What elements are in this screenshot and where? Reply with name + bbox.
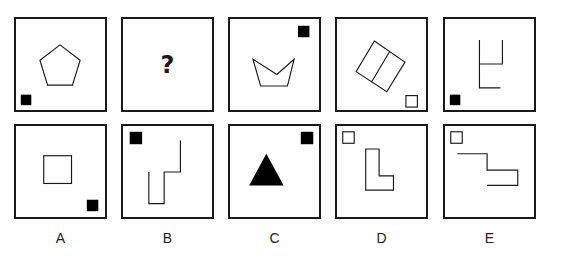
option-c-label: C xyxy=(228,230,321,246)
pentagon-icon xyxy=(16,19,105,110)
filled-square-marker xyxy=(87,200,98,211)
question-mark: ? xyxy=(123,51,212,79)
option-c[interactable] xyxy=(228,124,321,219)
filled-square-marker xyxy=(298,26,309,37)
question-cell-missing: ? xyxy=(121,17,214,112)
z-line-figure-icon xyxy=(445,126,534,217)
square-outline-icon xyxy=(16,126,105,217)
filled-square-marker xyxy=(21,95,32,106)
option-b[interactable] xyxy=(121,124,214,219)
filled-triangle-icon xyxy=(230,126,319,217)
question-cell-1 xyxy=(14,17,107,112)
option-d[interactable] xyxy=(335,124,428,219)
option-e[interactable] xyxy=(443,124,536,219)
option-b-label: B xyxy=(121,230,214,246)
step-line-figure-icon xyxy=(123,126,212,217)
hollow-square-marker xyxy=(343,132,354,143)
divided-rectangle-icon xyxy=(337,19,426,110)
question-cell-4 xyxy=(335,17,428,112)
crown-pentagon-icon xyxy=(230,19,319,110)
question-cell-3 xyxy=(228,17,321,112)
option-a[interactable] xyxy=(14,124,107,219)
filled-square-marker xyxy=(130,132,142,144)
option-a-label: A xyxy=(14,230,107,246)
option-e-label: E xyxy=(443,230,536,246)
l-shape-outline-icon xyxy=(337,126,426,217)
open-line-figure-icon xyxy=(445,19,534,110)
option-d-label: D xyxy=(335,230,428,246)
hollow-square-marker xyxy=(451,132,462,143)
filled-square-marker xyxy=(301,132,313,144)
question-cell-5 xyxy=(443,17,536,112)
filled-square-marker xyxy=(450,95,461,106)
hollow-square-marker xyxy=(406,96,417,107)
